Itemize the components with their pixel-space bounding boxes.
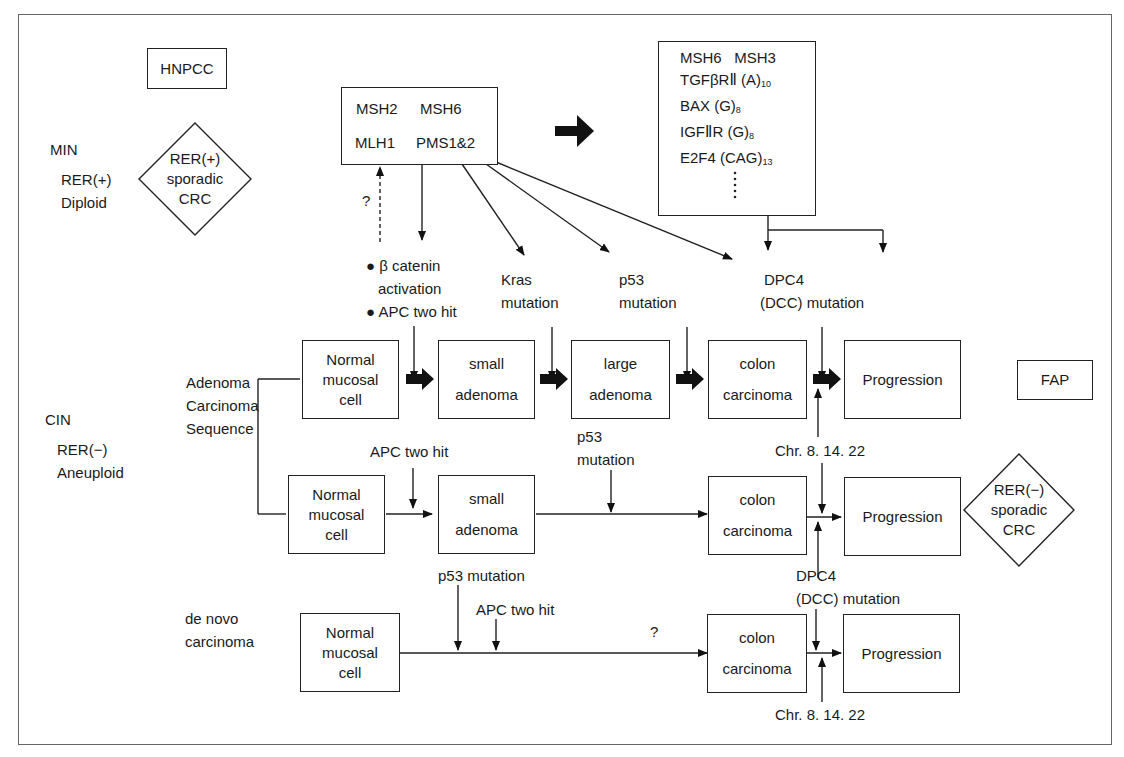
kras-mutation-label: mutation [501,293,559,312]
row2-colon-line2: carcinoma [723,521,792,541]
row2-p53-mutation-label: mutation [577,450,635,469]
de-novo-label-2: carcinoma [185,632,254,651]
row2-small-line2: adenoma [455,520,518,540]
diamond-neg-line3: CRC [1003,520,1036,540]
row2-small-adenoma-box: small adenoma [438,475,535,554]
target-gene-list: MSH6 MSH3 TGFβRⅡ (A)10 BAX (G)8 IGFⅡR (G… [680,47,776,173]
row1-large-adenoma-box: large adenoma [571,340,670,419]
rer-negative-sporadic-diamond: RER(−) sporadic CRC [964,454,1074,566]
row1-small-adenoma-box: small adenoma [438,340,535,419]
sequence-label-2: Carcinoma [186,396,259,415]
row3-dcc-mutation-label: (DCC) mutation [796,589,900,608]
hnpcc-box: HNPCC [147,48,227,89]
row2-apc-label: APC two hit [370,442,448,461]
row2-small-line1: small [469,489,504,509]
row2-normal-cell-box: Normal mucosal cell [288,475,385,554]
row3-normal-line3: cell [339,663,362,683]
row3-question-mark: ? [650,622,658,641]
gene-bax: BAX (G) [680,97,736,114]
rer-positive-label: RER(+) [61,170,111,189]
row1-large-line2: adenoma [589,385,652,405]
fap-box: FAP [1017,360,1093,400]
row2-chr-label: Chr. 8. 14. 22 [775,441,865,460]
row2-colon-carcinoma-box: colon carcinoma [708,476,807,555]
sequence-label-1: Adenoma [186,373,250,392]
row2-normal-line1: Normal [312,485,360,505]
row3-p53-label: p53 mutation [438,566,525,585]
row2-colon-line1: colon [740,490,776,510]
mmr-mlh1: MLH1 [355,133,395,152]
question-mark-top: ? [362,191,370,210]
aneuploid-label: Aneuploid [57,463,124,482]
beta-catenin-label: ● β catenin [366,256,440,275]
row2-progression-box: Progression [844,477,961,556]
row3-normal-line2: mucosal [322,643,378,663]
row1-progression-box: Progression [844,340,961,419]
de-novo-label-1: de novo [185,609,238,628]
ellipsis-vertical-icon [732,170,738,206]
dcc-top-mutation-label: (DCC) mutation [760,293,864,312]
row3-normal-cell-box: Normal mucosal cell [300,613,400,692]
row1-normal-line3: cell [339,390,362,410]
gene-igf2r: IGFⅡR (G) [680,123,749,140]
p53-top-mutation-label: mutation [619,293,677,312]
mmr-pms: PMS1&2 [416,133,475,152]
row1-small-line1: small [469,354,504,374]
gene-tgfbr2: TGFβRⅡ (A) [680,71,761,88]
sequence-label-3: Sequence [186,419,254,438]
apc-two-hit-top-label: ● APC two hit [366,302,457,321]
row3-dpc4-label: DPC4 [796,566,836,585]
gene-e2f4: E2F4 (CAG) [680,149,763,166]
gene-e2f4-repeat: 13 [763,157,773,167]
min-label: MIN [50,140,78,159]
row2-progression-label: Progression [862,507,942,527]
row3-progression-label: Progression [861,644,941,664]
diamond-pos-line2: sporadic [167,169,224,189]
row3-apc-label: APC two hit [476,600,554,619]
row1-large-line1: large [604,354,637,374]
diamond-neg-line1: RER(−) [994,480,1044,500]
row3-colon-line2: carcinoma [722,659,791,679]
row1-normal-line2: mucosal [323,370,379,390]
fap-label: FAP [1041,370,1069,390]
kras-label: Kras [501,270,532,289]
row1-colon-line2: carcinoma [723,385,792,405]
hnpcc-label: HNPCC [160,59,213,79]
gene-tgfbr2-repeat: 10 [761,79,771,89]
row3-progression-box: Progression [843,614,960,693]
row3-colon-carcinoma-box: colon carcinoma [707,614,807,693]
row2-p53-label: p53 [577,427,602,446]
diploid-label: Diploid [61,193,107,212]
row1-normal-line1: Normal [326,350,374,370]
row1-colon-line1: colon [740,354,776,374]
p53-top-label: p53 [619,270,644,289]
row1-progression-label: Progression [862,370,942,390]
cin-label: CIN [45,410,71,429]
mmr-msh6: MSH6 [420,99,462,118]
row2-normal-line2: mucosal [309,505,365,525]
gene-bax-repeat: 8 [736,105,741,115]
row1-small-line2: adenoma [455,385,518,405]
gene-msh3: MSH3 [734,49,776,66]
row3-colon-line1: colon [739,628,775,648]
rer-positive-sporadic-diamond: RER(+) sporadic CRC [139,123,251,235]
beta-catenin-activation-label: activation [378,279,441,298]
row3-normal-line1: Normal [326,623,374,643]
row1-normal-cell-box: Normal mucosal cell [302,340,399,419]
diamond-pos-line3: CRC [179,189,212,209]
diamond-pos-line1: RER(+) [170,149,220,169]
bold-arrow-right [555,115,594,147]
dpc4-top-label: DPC4 [764,270,804,289]
rer-negative-label: RER(−) [57,440,107,459]
row1-colon-carcinoma-box: colon carcinoma [708,340,807,419]
diamond-neg-line2: sporadic [991,500,1048,520]
row2-normal-line3: cell [325,525,348,545]
gene-msh6: MSH6 [680,49,722,66]
gene-igf2r-repeat: 8 [749,131,754,141]
row3-chr-label: Chr. 8. 14. 22 [775,705,865,724]
mmr-msh2: MSH2 [356,99,398,118]
